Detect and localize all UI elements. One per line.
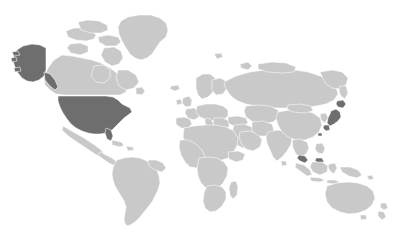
region-aleutian-2 xyxy=(14,67,21,72)
region-aleutian-1 xyxy=(11,57,17,62)
region-ireland xyxy=(176,99,182,105)
region-tasmania xyxy=(360,215,367,220)
region-japan-south-islands xyxy=(318,133,322,136)
world-map-container xyxy=(0,0,396,238)
world-map xyxy=(0,0,396,238)
region-sri-lanka xyxy=(281,161,287,166)
